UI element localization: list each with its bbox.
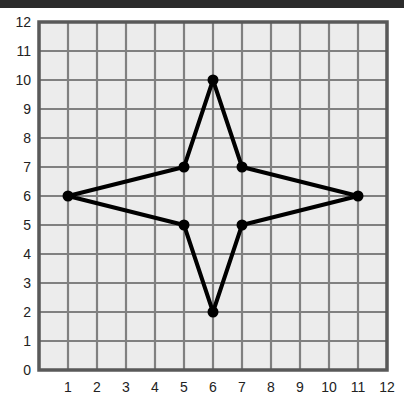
y-tick-label-6: 6 — [5, 189, 31, 203]
data-point-G — [208, 307, 219, 318]
y-tick-label-2: 2 — [5, 305, 31, 319]
plot-area — [39, 22, 387, 370]
data-point-F — [237, 220, 248, 231]
y-tick-label-0: 0 — [5, 363, 31, 377]
x-tick-label-4: 4 — [142, 380, 168, 394]
y-tick-label-1: 1 — [5, 334, 31, 348]
data-point-D — [237, 162, 248, 173]
y-tick-label-8: 8 — [5, 131, 31, 145]
y-tick-label-11: 11 — [5, 44, 31, 58]
data-point-A — [63, 191, 74, 202]
x-tick-label-12: 12 — [374, 380, 400, 394]
y-tick-label-10: 10 — [5, 73, 31, 87]
data-point-C — [208, 75, 219, 86]
data-point-H — [179, 220, 190, 231]
x-tick-label-8: 8 — [258, 380, 284, 394]
x-tick-label-11: 11 — [345, 380, 371, 394]
coordinate-grid-chart: 0123456789101112 123456789101112 — [0, 8, 404, 412]
x-tick-label-10: 10 — [316, 380, 342, 394]
y-tick-label-9: 9 — [5, 102, 31, 116]
x-tick-label-9: 9 — [287, 380, 313, 394]
x-tick-label-5: 5 — [171, 380, 197, 394]
x-tick-label-2: 2 — [84, 380, 110, 394]
x-tick-label-6: 6 — [200, 380, 226, 394]
y-tick-label-3: 3 — [5, 276, 31, 290]
x-tick-label-3: 3 — [113, 380, 139, 394]
data-point-B — [179, 162, 190, 173]
y-tick-label-7: 7 — [5, 160, 31, 174]
y-tick-label-5: 5 — [5, 218, 31, 232]
series-polygon — [39, 22, 387, 370]
y-tick-label-4: 4 — [5, 247, 31, 261]
data-point-E — [353, 191, 364, 202]
x-tick-label-1: 1 — [55, 380, 81, 394]
y-tick-label-12: 12 — [5, 15, 31, 29]
x-tick-label-7: 7 — [229, 380, 255, 394]
top-band — [0, 0, 404, 8]
